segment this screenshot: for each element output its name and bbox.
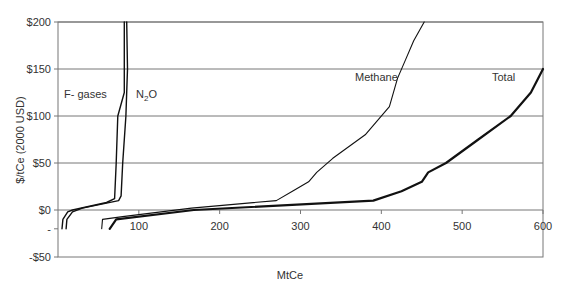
- y-tick-label: $50: [33, 157, 51, 169]
- y-tick-label: -$50: [29, 251, 51, 263]
- x-tick-label: 100: [130, 220, 148, 232]
- series-lines: [62, 22, 543, 229]
- horizontal-gridlines: [58, 22, 543, 210]
- y-axis-title: $/tCe (2000 USD): [14, 96, 26, 183]
- y-tick-label: $150: [27, 63, 51, 75]
- y-tick-label: $200: [27, 16, 51, 28]
- series-label-n2o: N2O: [136, 88, 157, 103]
- series-line-total: [110, 69, 543, 229]
- x-tick-label: 200: [210, 220, 228, 232]
- x-tick-label: 300: [291, 220, 309, 232]
- x-axis-ticks: 100200300400500600: [130, 210, 553, 232]
- series-label-fgases: F- gases: [64, 88, 107, 100]
- x-tick-label: 500: [453, 220, 471, 232]
- y-axis-ticks: $200$150$100$50$0--$50: [27, 16, 58, 263]
- x-axis-title: MtCe: [277, 269, 303, 281]
- y-tick-label: $100: [27, 110, 51, 122]
- series-label-methane: Methane: [355, 71, 398, 83]
- y-tick-label: -: [47, 223, 51, 235]
- series-line-n2o: [66, 22, 127, 229]
- x-tick-label: 600: [534, 220, 552, 232]
- series-line-methane: [102, 22, 425, 229]
- x-tick-label: 400: [372, 220, 390, 232]
- series-label-total: Total: [492, 71, 515, 83]
- marginal-abatement-cost-chart: $200$150$100$50$0--$50 10020030040050060…: [0, 0, 564, 297]
- series-line-f-gases: [62, 22, 124, 229]
- y-tick-label: $0: [39, 204, 51, 216]
